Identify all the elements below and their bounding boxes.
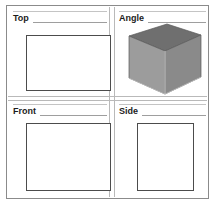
pane-side-rule-right [142,115,206,116]
pane-top-header: Top [13,11,107,24]
pane-angle-label: Angle [119,12,148,24]
pane-top-label: Top [13,12,33,24]
pane-front-header: Front [13,104,107,117]
viewport-frame: Top Angle [6,5,209,199]
pane-angle[interactable]: Angle [115,8,208,96]
pane-front[interactable]: Front [9,101,109,197]
pane-front-rule-right [40,115,107,116]
projection-rect-top[interactable] [26,35,111,91]
pane-side-label: Side [119,105,142,117]
pane-side-header: Side [119,104,206,117]
viewport-window: Top Angle [0,0,216,206]
pane-top[interactable]: Top [9,8,109,96]
pane-front-label: Front [13,105,40,117]
cube-icon[interactable] [123,20,205,96]
projection-rect-front[interactable] [26,123,111,191]
projection-rect-side[interactable] [137,123,194,191]
pane-side[interactable]: Side [115,101,208,197]
divider-horizontal-upper[interactable] [8,96,207,97]
pane-top-rule-right [33,22,107,23]
